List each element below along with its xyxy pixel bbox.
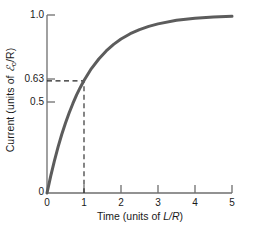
- x-axis-label-tail: ): [179, 210, 183, 222]
- y-axis-label-tail: /R): [4, 48, 16, 62]
- y-axis-label: Current (units of ℰo/R): [4, 48, 17, 153]
- y-tick-label: 0.63: [18, 74, 44, 84]
- x-tick-label-group: 0 1 2 3 4 5: [0, 197, 253, 211]
- x-tick-label: 4: [186, 197, 204, 208]
- chart-figure: Current (units of ℰo/R) 1.0 0.63 0.5 0: [0, 0, 253, 232]
- x-tick-label: 2: [112, 197, 130, 208]
- y-tick-label: 1.0: [18, 10, 44, 20]
- y-tick-row: 0: [18, 187, 44, 197]
- y-tick-row: 0.63: [18, 74, 44, 84]
- y-tick-label: 0: [18, 187, 44, 197]
- x-axis-label: Time (units of L/R): [47, 210, 233, 222]
- time-constant-guide-line: [47, 81, 84, 193]
- x-axis-label-italic: L/R: [163, 210, 179, 222]
- emf-symbol-icon: ℰ: [4, 66, 16, 72]
- y-tick-row: 0.5: [18, 97, 44, 107]
- x-tick-label: 3: [149, 197, 167, 208]
- y-tick-label-group: 1.0 0.63 0.5 0: [18, 0, 44, 200]
- y-axis-label-lead: Current (units of: [4, 72, 16, 152]
- current-curve: [47, 16, 232, 193]
- y-axis-label-subscript: o: [9, 62, 18, 66]
- x-tick-label: 1: [75, 197, 93, 208]
- x-axis-label-lead: Time (units of: [97, 210, 163, 222]
- y-tick-row: 1.0: [18, 10, 44, 20]
- x-tick-label: 0: [38, 197, 56, 208]
- x-tick-label: 5: [223, 197, 241, 208]
- y-tick-label: 0.5: [18, 97, 44, 107]
